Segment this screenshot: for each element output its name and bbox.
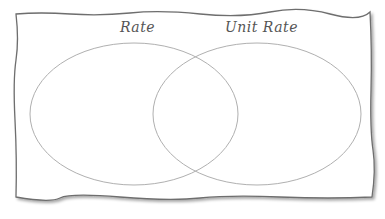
set-label-unit-rate: Unit Rate (225, 19, 298, 35)
set-label-rate: Rate (120, 19, 155, 35)
venn-diagram-frame (0, 0, 385, 219)
